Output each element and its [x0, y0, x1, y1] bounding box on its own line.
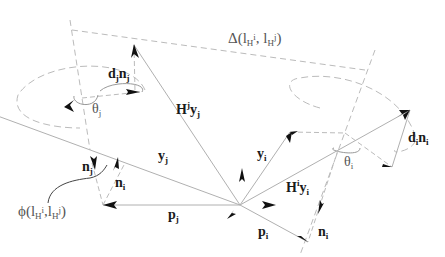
label-di-ni: dini: [408, 130, 429, 147]
rotation-ellipses: [17, 66, 416, 152]
arrow-origin-right: [262, 201, 276, 209]
plane-lines: [70, 20, 375, 255]
label-pi: pi: [258, 224, 269, 241]
arrow-origin-up: [239, 168, 245, 182]
arrow-left-corner: [64, 100, 74, 112]
label-hi-yi: Hiyi: [286, 178, 309, 197]
label-ni-left: ni: [115, 175, 126, 192]
label-phi: ϕ(lHi,lHj): [18, 203, 66, 221]
label-pj: pj: [168, 207, 179, 224]
label-dj-nj: djnj: [108, 66, 130, 83]
geometry-diagram: Δ(lHi, lHj) djnj θj Hjyj yj nj ni ϕ(lHi,…: [0, 0, 445, 257]
label-yj: yj: [158, 148, 168, 165]
label-delta: Δ(lHi, lHj): [228, 30, 282, 48]
label-hj-yj: Hjyj: [176, 100, 200, 119]
label-yi: yi: [257, 146, 267, 163]
label-nj: nj: [82, 159, 93, 176]
phi-leader: [48, 165, 107, 203]
label-ni-bottom: ni: [318, 224, 329, 241]
arrow-dini: [382, 164, 392, 167]
label-theta-j: θj: [92, 101, 101, 118]
label-theta-i: θi: [344, 154, 354, 171]
arrow-djnj: [126, 89, 140, 95]
arrow-origin-diag: [227, 210, 236, 219]
